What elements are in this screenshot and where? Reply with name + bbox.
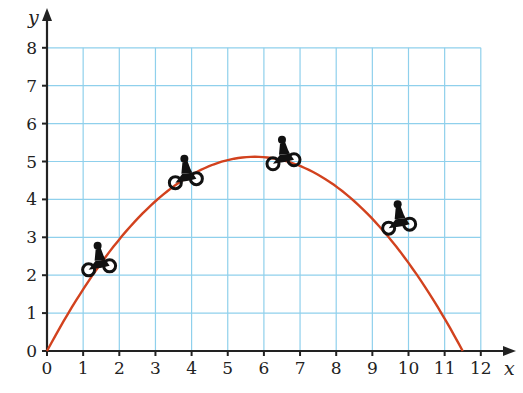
y-axis-label: y: [27, 6, 39, 28]
y-tick-label: 7: [26, 76, 37, 96]
motorbike-icon: [383, 200, 416, 234]
y-tick-label: 2: [26, 265, 37, 285]
x-tick-label: 11: [434, 358, 456, 378]
motorbike-icon: [267, 136, 300, 170]
x-tick-label: 8: [331, 358, 342, 378]
y-tick-label: 0: [26, 341, 37, 361]
x-tick-label: 12: [470, 358, 492, 378]
motorbike-icon: [169, 155, 202, 189]
x-tick-label: 7: [295, 358, 306, 378]
x-tick-label: 3: [150, 358, 161, 378]
x-tick-label: 5: [222, 358, 233, 378]
y-tick-label: 4: [26, 189, 37, 209]
tick-labels: 0123456789101112012345678: [26, 38, 491, 378]
y-tick-label: 5: [26, 152, 37, 172]
trajectory-chart: 0123456789101112012345678 x y: [0, 0, 523, 393]
y-tick-label: 6: [26, 114, 37, 134]
x-tick-label: 9: [367, 358, 378, 378]
x-tick-label: 1: [78, 358, 89, 378]
y-axis-arrow-icon: [42, 8, 52, 21]
y-tick-label: 8: [26, 38, 37, 58]
x-tick-label: 4: [186, 358, 197, 378]
grid-lines: [47, 48, 481, 351]
x-axis-arrow-icon: [503, 346, 516, 356]
motorbike-icon: [83, 242, 116, 276]
x-tick-label: 10: [398, 358, 420, 378]
trajectory-curve: [47, 157, 463, 351]
y-tick-label: 3: [26, 227, 37, 247]
x-tick-label: 0: [42, 358, 53, 378]
x-axis-label: x: [504, 357, 515, 379]
x-tick-label: 2: [114, 358, 125, 378]
y-tick-label: 1: [26, 303, 37, 323]
x-tick-label: 6: [258, 358, 269, 378]
